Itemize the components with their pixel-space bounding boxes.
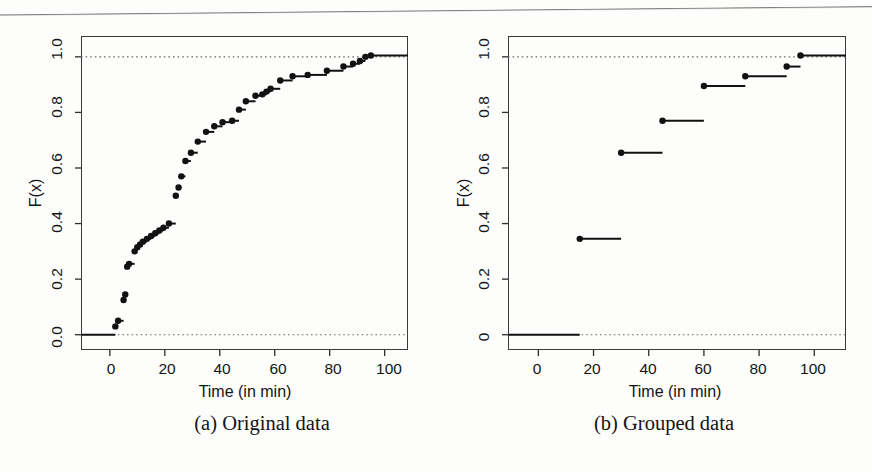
- x-tick-label-a-2: 40: [213, 360, 230, 378]
- caption-panel-b: (b) Grouped data: [594, 412, 734, 435]
- y-tick-label-b-4: 0.8: [475, 96, 493, 118]
- x-tick-label-a-3: 60: [269, 360, 286, 378]
- y-tick-label-a-1: 0.2: [48, 268, 66, 290]
- x-tick-label-b-0: 0: [533, 360, 542, 378]
- x-axis-title-a: Time (in min): [199, 383, 292, 401]
- y-tick-label-b-1: 0.2: [475, 268, 493, 290]
- figure-container: 0.0 0.2 0.4 0.6 0.8 1.0 0 20 40 60 80 10…: [0, 0, 872, 472]
- y-tick-label-b-3: 0.6: [475, 153, 493, 175]
- x-tick-label-b-3: 60: [694, 360, 711, 378]
- y-tick-label-a-3: 0.6: [48, 153, 66, 175]
- y-tick-label-b-5: 1.0: [475, 38, 493, 60]
- x-tick-label-b-4: 80: [749, 360, 766, 378]
- y-axis-title-b: F(x): [455, 179, 473, 207]
- y-tick-label-a-4: 0.8: [48, 96, 66, 118]
- y-tick-label-a-2: 0.4: [48, 211, 66, 233]
- y-tick-label-b-0: 0: [475, 333, 493, 342]
- panel-grouped-data: 0 0.2 0.4 0.6 0.8 1.0 0 20 40 60 80 100 …: [440, 0, 872, 472]
- x-tick-label-b-5: 100: [800, 360, 826, 378]
- y-tick-label-a-5: 1.0: [48, 38, 66, 60]
- x-tick-label-a-5: 100: [376, 360, 402, 378]
- x-tick-label-a-4: 80: [324, 360, 341, 378]
- y-tick-label-b-2: 0.4: [475, 211, 493, 233]
- caption-panel-a: (a) Original data: [194, 412, 329, 435]
- x-tick-label-b-2: 40: [639, 360, 656, 378]
- x-tick-label-a-1: 20: [158, 360, 175, 378]
- x-tick-label-b-1: 20: [583, 360, 600, 378]
- plot-area-b: [440, 0, 872, 472]
- y-axis-title-a: F(x): [27, 179, 45, 207]
- x-axis-title-b: Time (in min): [629, 383, 722, 401]
- panel-original-data: 0.0 0.2 0.4 0.6 0.8 1.0 0 20 40 60 80 10…: [0, 0, 440, 472]
- y-tick-label-a-0: 0.0: [48, 326, 66, 348]
- x-tick-label-a-0: 0: [107, 360, 116, 378]
